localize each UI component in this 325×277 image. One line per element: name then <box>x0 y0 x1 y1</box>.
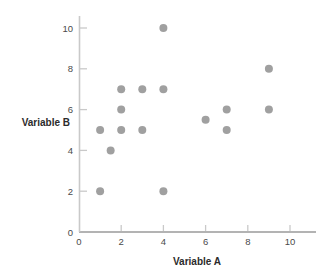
data-point <box>265 106 273 114</box>
data-point <box>138 126 146 134</box>
y-tick-label: 0 <box>68 227 73 238</box>
x-tick-label: 6 <box>203 236 208 247</box>
data-point <box>265 65 273 73</box>
data-point <box>96 126 104 134</box>
data-points-group <box>96 24 273 195</box>
x-axis-ticks: 0246810 <box>76 225 295 247</box>
y-tick-label: 8 <box>68 63 73 74</box>
data-point <box>223 106 231 114</box>
data-point <box>159 187 167 195</box>
x-tick-label: 8 <box>245 236 250 247</box>
x-tick-label: 10 <box>285 236 296 247</box>
data-point <box>117 106 125 114</box>
data-point <box>159 85 167 93</box>
data-point <box>202 116 210 124</box>
y-axis-ticks: 0246810 <box>62 23 87 238</box>
axes <box>79 16 316 232</box>
data-point <box>159 24 167 32</box>
x-tick-label: 2 <box>119 236 124 247</box>
data-point <box>223 126 231 134</box>
plot-canvas: 0246810 0246810 Variable A Variable B <box>0 0 325 277</box>
data-point <box>117 126 125 134</box>
x-tick-label: 4 <box>161 236 166 247</box>
y-tick-label: 4 <box>68 145 73 156</box>
y-tick-label: 6 <box>68 104 73 115</box>
data-point <box>138 85 146 93</box>
x-axis-title: Variable A <box>173 256 221 267</box>
y-tick-label: 2 <box>68 186 73 197</box>
y-tick-label: 10 <box>62 23 73 34</box>
data-point <box>117 85 125 93</box>
scatter-plot-figure: 0246810 0246810 Variable A Variable B <box>0 0 325 277</box>
y-axis-title: Variable B <box>22 117 70 128</box>
x-tick-label: 0 <box>76 236 81 247</box>
data-point <box>107 146 115 154</box>
data-point <box>96 187 104 195</box>
